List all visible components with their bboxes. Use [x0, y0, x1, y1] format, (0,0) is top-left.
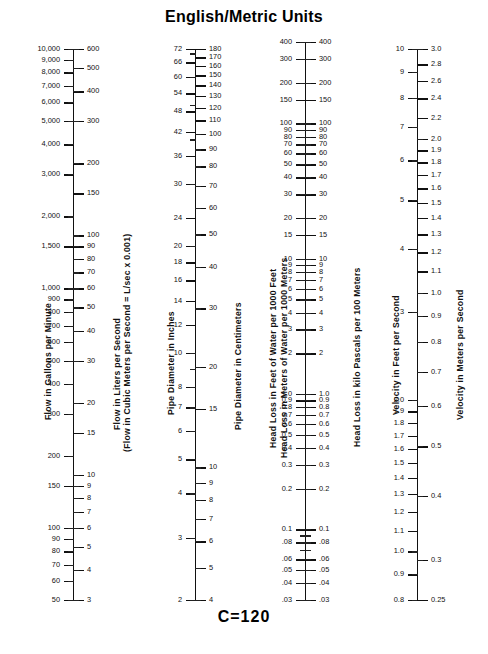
tick-velocity-si — [417, 271, 428, 272]
tick-diameter-en — [186, 111, 196, 112]
label-velocity-si: 0.5 — [431, 443, 441, 450]
label-flow-en: 700 — [15, 322, 60, 329]
label-headloss-si: 70 — [319, 141, 327, 148]
tick-minor-velocity-en — [412, 249, 418, 250]
label-diameter-en: 30 — [137, 180, 182, 187]
label-velocity-si: 2.2 — [431, 114, 441, 121]
label-diameter-si: 9 — [209, 479, 213, 486]
label-headloss-en: .05 — [247, 566, 292, 573]
caption-headloss-english: Head Loss in Feet of Water per 1000 Feet — [268, 269, 278, 448]
label-diameter-si: 30 — [209, 305, 217, 312]
label-flow-en: 50 — [15, 596, 60, 603]
label-diameter-si: 4 — [209, 596, 213, 603]
label-headloss-si: 300 — [319, 55, 331, 62]
label-velocity-en: 5 — [359, 197, 404, 204]
tick-minor-headloss-si — [305, 550, 311, 551]
tick-minor-diameter-si — [195, 367, 201, 368]
label-flow-en: 1,000 — [15, 285, 60, 292]
caption-flow-metric2: (Flow in Cubic Meters per Second = L/sec… — [122, 234, 132, 452]
tick-flow-si — [73, 433, 84, 434]
tick-minor-headloss-si — [305, 407, 311, 408]
label-velocity-en: 1.3 — [359, 490, 404, 497]
tick-minor-diameter-si — [195, 267, 201, 268]
label-headloss-si: 7 — [319, 276, 323, 283]
label-diameter-si: 130 — [209, 92, 221, 99]
label-flow-en: 60 — [15, 577, 60, 584]
label-flow-en: 9,000 — [15, 56, 60, 63]
tick-minor-velocity-en — [412, 312, 418, 313]
tick-minor-flow-si — [73, 528, 79, 529]
label-flow-en: 3,000 — [15, 171, 60, 178]
label-velocity-si: 1.6 — [431, 185, 441, 192]
label-headloss-si: 8 — [319, 268, 323, 275]
tick-minor-diameter-en — [190, 459, 196, 460]
tick-velocity-en — [408, 512, 418, 513]
label-flow-en: 7,000 — [15, 82, 60, 89]
label-flow-si: 5 — [87, 543, 91, 550]
label-velocity-si: 2.4 — [431, 95, 441, 102]
label-velocity-en: 8 — [359, 94, 404, 101]
tick-minor-flow-si — [73, 475, 79, 476]
axis-line-velocity — [417, 49, 418, 600]
label-velocity-en: 6 — [359, 157, 404, 164]
tick-minor-diameter-en — [190, 431, 196, 432]
label-headloss-si: 6 — [319, 285, 323, 292]
label-headloss-en: 300 — [247, 55, 292, 62]
tick-velocity-en — [408, 531, 418, 532]
tick-diameter-en — [186, 218, 196, 219]
label-velocity-si: 1.3 — [431, 231, 441, 238]
label-diameter-en: 4 — [137, 490, 182, 497]
label-headloss-en: 0.3 — [247, 461, 292, 468]
label-headloss-en: 400 — [247, 38, 292, 45]
tick-minor-flow-en — [68, 216, 74, 217]
label-headloss-si: 40 — [319, 174, 327, 181]
label-velocity-si: 1.5 — [431, 199, 441, 206]
label-diameter-en: 18 — [137, 258, 182, 265]
label-diameter-si: 60 — [209, 204, 217, 211]
tick-minor-flow-si — [73, 272, 79, 273]
tick-velocity-si — [417, 162, 428, 163]
tick-minor-flow-si — [73, 49, 79, 50]
label-diameter-en: 60 — [137, 73, 182, 80]
label-velocity-en: 1.2 — [359, 508, 404, 515]
tick-minor-flow-si — [73, 361, 79, 362]
label-diameter-si: 160 — [209, 62, 221, 69]
tick-minor-velocity-si — [417, 446, 423, 447]
tick-minor-headloss-si — [305, 194, 311, 195]
tick-minor-diameter-si — [195, 208, 201, 209]
tick-minor-diameter-en — [190, 246, 196, 247]
label-headloss-si: 0.3 — [319, 461, 329, 468]
tick-diameter-en — [186, 325, 196, 326]
axis-line-headloss — [305, 42, 306, 600]
label-velocity-en: 0.9 — [359, 571, 404, 578]
tick-velocity-si — [417, 175, 428, 176]
tick-minor-diameter-si — [195, 519, 201, 520]
tick-minor-diameter-si — [195, 134, 201, 135]
label-headloss-en: 0.2 — [247, 485, 292, 492]
label-diameter-en: 42 — [137, 128, 182, 135]
tick-velocity-en — [408, 411, 418, 412]
label-flow-si: 15 — [87, 429, 95, 436]
axis-line-flow — [73, 49, 74, 600]
tick-minor-flow-si — [73, 246, 79, 247]
label-flow-en: 8,000 — [15, 69, 60, 76]
tick-minor-velocity-si — [417, 496, 423, 497]
tick-diameter-en — [186, 93, 196, 94]
tick-minor-headloss-si — [305, 394, 311, 395]
tick-minor-headloss-si — [305, 529, 311, 530]
label-diameter-si: 80 — [209, 163, 217, 170]
label-headloss-si: 200 — [319, 79, 331, 86]
tick-velocity-en — [408, 436, 418, 437]
label-flow-en: 1,500 — [15, 243, 60, 250]
tick-minor-headloss-si — [305, 153, 311, 154]
tick-minor-diameter-si — [195, 541, 201, 542]
tick-minor-headloss-si — [305, 299, 311, 300]
tick-minor-headloss-si — [305, 424, 311, 425]
tick-minor-flow-en — [68, 174, 74, 175]
tick-minor-diameter-en — [190, 184, 196, 185]
label-velocity-en: 0.8 — [359, 596, 404, 603]
label-headloss-en: 50 — [247, 160, 292, 167]
tick-minor-headloss-si — [305, 329, 311, 330]
tick-diameter-en — [186, 301, 196, 302]
label-flow-si: 600 — [87, 45, 99, 52]
